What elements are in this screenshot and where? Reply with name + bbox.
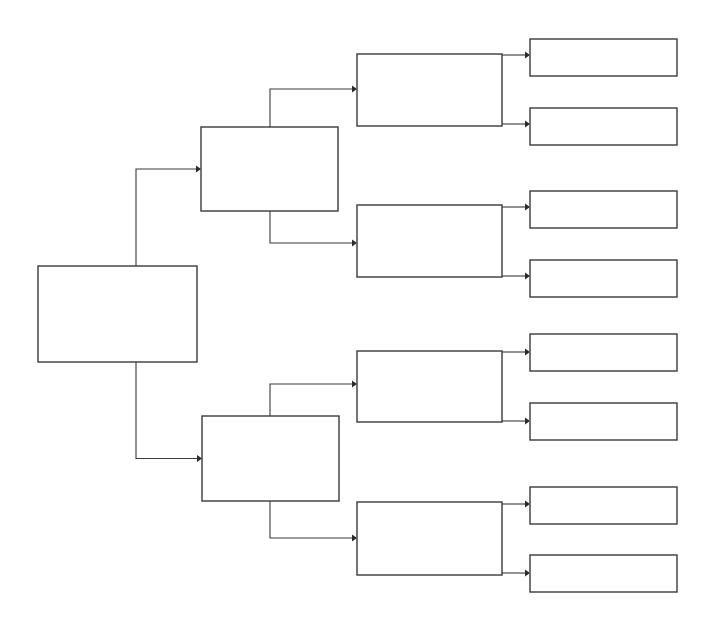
level4-box-3-rect	[530, 191, 677, 228]
level4-box-1	[530, 39, 677, 76]
level2-box-1-rect	[201, 127, 338, 211]
connector-l3-1-to-l4-1-arrow-icon	[525, 52, 530, 59]
level4-box-6-rect	[530, 403, 677, 440]
level4-box-2	[530, 108, 677, 145]
root-box	[38, 266, 197, 362]
connector-l2-1-to-l3-1	[270, 89, 353, 127]
connector-l2-2-to-l3-4-arrow-icon	[352, 535, 357, 542]
level2-box-2	[202, 416, 339, 501]
level3-box-4	[357, 502, 502, 575]
level3-box-3	[357, 351, 502, 422]
level4-box-6	[530, 403, 677, 440]
root-box-rect	[38, 266, 197, 362]
level3-box-3-rect	[357, 351, 502, 422]
level3-box-1-rect	[357, 54, 502, 126]
connector-l3-3-to-l4-5-arrow-icon	[525, 349, 530, 356]
connector-l2-1-to-l3-2	[270, 211, 353, 243]
connector-l2-1-to-l3-2-arrow-icon	[352, 240, 357, 247]
connector-l2-2-to-l3-4	[270, 501, 353, 538]
level4-box-4-rect	[530, 260, 677, 297]
connector-l3-1-to-l4-2-arrow-icon	[525, 121, 530, 128]
level4-box-3	[530, 191, 677, 228]
level4-box-5	[530, 334, 677, 371]
level2-box-1	[201, 127, 338, 211]
level4-box-4	[530, 260, 677, 297]
level4-box-1-rect	[530, 39, 677, 76]
connector-root-to-l2-2-arrow-icon	[197, 455, 202, 462]
level3-box-2-rect	[357, 205, 502, 277]
connector-l3-3-to-l4-6-arrow-icon	[525, 418, 530, 425]
level2-box-2-rect	[202, 416, 339, 501]
level3-box-1	[357, 54, 502, 126]
level4-box-5-rect	[530, 334, 677, 371]
connector-l3-4-to-l4-8-arrow-icon	[525, 570, 530, 577]
connector-root-to-l2-2	[136, 362, 198, 459]
level4-box-2-rect	[530, 108, 677, 145]
tree-diagram	[0, 0, 711, 628]
level4-box-7-rect	[530, 487, 677, 524]
level4-box-7	[530, 487, 677, 524]
level3-box-2	[357, 205, 502, 277]
connector-l3-4-to-l4-7-arrow-icon	[525, 501, 530, 508]
connector-root-to-l2-1-arrow-icon	[196, 166, 201, 173]
connector-root-to-l2-1	[136, 169, 197, 266]
level4-box-8-rect	[530, 555, 677, 592]
connector-l3-2-to-l4-4-arrow-icon	[525, 273, 530, 280]
level3-box-4-rect	[357, 502, 502, 575]
level4-box-8	[530, 555, 677, 592]
connector-l2-2-to-l3-3	[270, 384, 353, 416]
connector-l2-2-to-l3-3-arrow-icon	[352, 381, 357, 388]
connector-l3-2-to-l4-3-arrow-icon	[525, 204, 530, 211]
connector-l2-1-to-l3-1-arrow-icon	[352, 86, 357, 93]
